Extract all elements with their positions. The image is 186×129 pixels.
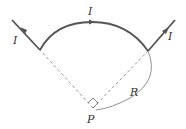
label-current-left: I xyxy=(12,34,18,47)
label-point-p: P xyxy=(86,113,95,126)
diagram-canvas: I I I R P xyxy=(0,0,186,129)
radius-arc xyxy=(96,51,151,110)
dashed-radius-right xyxy=(93,51,148,108)
label-radius: R xyxy=(129,86,138,99)
label-current-arc: I xyxy=(87,5,93,18)
arrow-icon-top xyxy=(89,20,95,25)
top-arc-wire xyxy=(40,22,148,51)
dashed-radius-left xyxy=(40,50,93,108)
right-angle-marker xyxy=(88,98,98,108)
label-current-right: I xyxy=(167,30,173,43)
